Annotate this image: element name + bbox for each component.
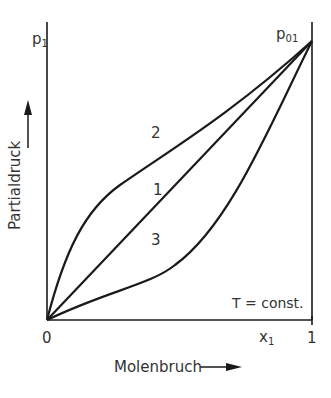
curve-label-2: 2 xyxy=(151,126,161,141)
y-symbol-sub: 1 xyxy=(42,38,48,49)
x-symbol-sub: 1 xyxy=(268,336,274,347)
condition-label: T = const. xyxy=(232,296,304,310)
x-tick-label-start: 0 xyxy=(42,331,52,346)
endpoint-symbol-sub: 01 xyxy=(286,33,299,44)
endpoint-label: p01 xyxy=(276,27,298,42)
y-axis-label: Partialdruck xyxy=(6,141,24,230)
y-arrow-head-icon xyxy=(24,100,32,115)
y-symbol-main: p xyxy=(32,30,42,48)
x-axis-symbol: x1 xyxy=(259,330,274,345)
curve-1-line xyxy=(47,41,312,320)
curve-label-1: 1 xyxy=(153,183,163,198)
curve-label-3: 3 xyxy=(151,233,161,248)
x-arrow-head-icon xyxy=(226,363,242,371)
x-symbol-main: x xyxy=(259,328,268,346)
endpoint-symbol-main: p xyxy=(276,25,286,43)
x-axis-label: Molenbruch xyxy=(114,360,202,375)
x-tick-label-end: 1 xyxy=(307,331,317,346)
y-axis-symbol: p1 xyxy=(32,32,48,47)
